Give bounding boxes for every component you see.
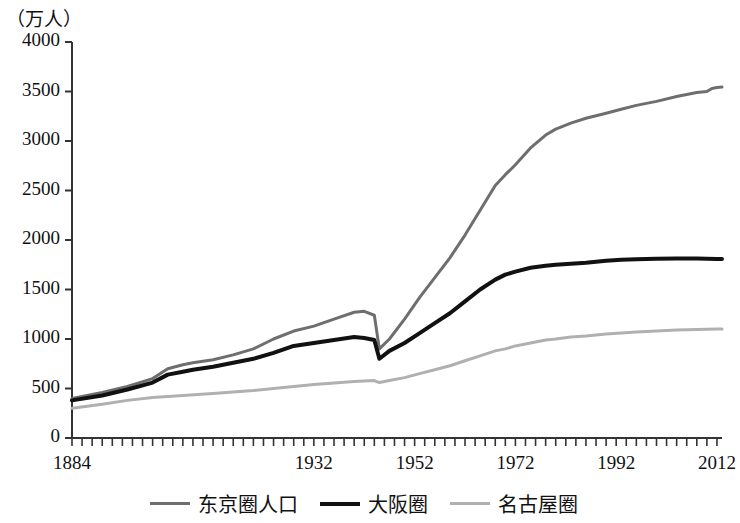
legend-label: 东京圈人口 [198,489,298,518]
x-tick-label: 1972 [475,452,555,474]
legend-item[interactable]: 名古屋圈 [450,489,578,518]
y-tick-label: 3500 [2,79,60,101]
y-tick-label: 1000 [2,326,60,348]
legend-color-swatch [150,502,190,505]
y-tick-label: 1500 [2,277,60,299]
chart-series-lines [72,87,722,408]
chart-axes [65,42,722,446]
y-tick-label: 2500 [2,178,60,200]
legend-color-swatch [450,502,490,505]
x-tick-label: 1992 [576,452,656,474]
x-tick-label: 1884 [32,452,112,474]
x-tick-label: 1932 [274,452,354,474]
legend-label: 名古屋圈 [498,489,578,518]
y-tick-label: 4000 [2,29,60,51]
x-tick-label: 2012 [677,452,740,474]
y-tick-label: 2000 [2,227,60,249]
y-tick-label: 0 [2,425,60,447]
legend-color-swatch [320,502,360,506]
chart-legend: 东京圈人口大阪圈名古屋圈 [0,489,727,518]
series-line [72,87,722,398]
x-tick-label: 1952 [375,452,455,474]
legend-label: 大阪圈 [368,489,428,518]
y-tick-label: 500 [2,376,60,398]
legend-item[interactable]: 大阪圈 [320,489,428,518]
y-tick-label: 3000 [2,128,60,150]
legend-item[interactable]: 东京圈人口 [150,489,298,518]
